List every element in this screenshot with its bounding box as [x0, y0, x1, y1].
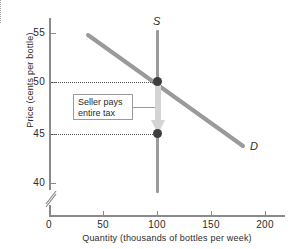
callout-seller-pays-entire-tax: Seller pays entire tax	[73, 94, 133, 120]
callout-line-2: entire tax	[78, 108, 132, 119]
demand-curve	[0, 0, 294, 249]
supply-demand-chart: Price (cents per bottle) 55 50 45 40 0 5…	[0, 0, 294, 249]
price-50-guide-line	[51, 82, 157, 83]
equilibrium-point-pre-tax	[153, 77, 162, 86]
equilibrium-point-post-tax	[153, 129, 162, 138]
callout-leader-line	[133, 107, 155, 108]
demand-curve-label: D	[250, 140, 258, 152]
supply-curve-label: S	[153, 15, 160, 27]
price-45-guide-line	[51, 134, 157, 135]
x-axis-title: Quantity (thousands of bottles per week)	[49, 233, 285, 243]
callout-line-1: Seller pays	[78, 97, 132, 108]
